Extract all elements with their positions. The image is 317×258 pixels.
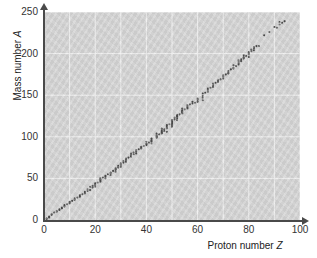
- y-tick-label: 0: [4, 215, 38, 225]
- scatter-point: [278, 23, 280, 25]
- scatter-points-layer: [44, 12, 300, 220]
- x-tick-label: 100: [285, 225, 315, 235]
- scatter-point: [156, 132, 158, 134]
- scatter-point: [179, 113, 181, 115]
- scatter-point: [194, 102, 196, 104]
- scatter-point: [278, 21, 280, 23]
- scatter-point: [209, 87, 211, 89]
- scatter-point: [92, 185, 94, 187]
- x-tick-label: 0: [29, 225, 59, 235]
- scatter-point: [120, 162, 122, 164]
- scatter-point: [197, 97, 199, 99]
- scatter-point: [89, 189, 91, 191]
- x-tick-label: 20: [80, 225, 110, 235]
- scatter-point: [63, 204, 65, 206]
- scatter-point: [61, 206, 63, 208]
- x-tick-label: 80: [234, 225, 264, 235]
- scatter-point: [104, 175, 106, 177]
- scatter-point: [253, 46, 255, 48]
- x-axis-line: [44, 220, 304, 222]
- scatter-point: [112, 170, 114, 172]
- scatter-point: [176, 114, 178, 116]
- scatter-point: [138, 148, 140, 150]
- scatter-point: [204, 92, 206, 94]
- y-axis-title: Mass number A: [12, 6, 23, 126]
- scatter-point: [81, 193, 83, 195]
- scatter-point: [158, 133, 160, 135]
- scatter-point: [148, 142, 150, 144]
- scatter-point: [127, 157, 129, 159]
- scatter-point: [56, 210, 58, 212]
- scatter-point: [166, 131, 168, 133]
- scatter-point: [248, 56, 250, 58]
- scatter-point: [161, 127, 163, 129]
- y-axis-arrow-icon: [40, 3, 48, 10]
- scatter-point: [107, 173, 109, 175]
- scatter-point: [115, 167, 117, 169]
- scatter-point: [235, 65, 237, 67]
- scatter-point: [273, 26, 275, 28]
- scatter-point: [163, 128, 165, 130]
- scatter-point: [250, 48, 252, 50]
- x-axis-title-text: Proton number: [207, 240, 273, 251]
- scatter-point: [276, 27, 278, 29]
- scatter-point: [48, 216, 50, 218]
- scatter-point: [168, 123, 170, 125]
- scatter-point: [135, 149, 137, 151]
- scatter-point: [171, 119, 173, 121]
- scatter-point: [150, 137, 152, 139]
- scatter-point: [222, 74, 224, 76]
- plot-area: [44, 12, 300, 220]
- x-axis-title-symbol: Z: [276, 240, 282, 251]
- scatter-point: [186, 104, 188, 106]
- y-axis-line: [43, 8, 45, 222]
- scatter-point: [130, 152, 132, 154]
- scatter-point: [51, 213, 53, 215]
- scatter-point: [86, 188, 88, 190]
- x-tick-label: 60: [183, 225, 213, 235]
- scatter-point: [110, 172, 112, 174]
- scatter-point: [66, 203, 68, 205]
- scatter-point: [181, 107, 183, 109]
- scatter-point: [268, 31, 270, 33]
- scatter-point: [99, 177, 101, 179]
- y-tick-label: 100: [4, 132, 38, 142]
- scatter-point: [202, 95, 204, 97]
- scatter-point: [74, 197, 76, 199]
- scatter-point: [255, 45, 257, 47]
- chart-figure: 050100150200250 020406080100 Mass number…: [0, 0, 317, 258]
- scatter-point: [202, 92, 204, 94]
- scatter-point: [166, 124, 168, 126]
- scatter-point: [89, 186, 91, 188]
- scatter-point: [263, 34, 265, 36]
- scatter-point: [212, 83, 214, 85]
- scatter-point: [214, 82, 216, 84]
- scatter-point: [232, 67, 234, 69]
- scatter-point: [145, 141, 147, 143]
- scatter-point: [53, 211, 55, 213]
- scatter-point: [245, 55, 247, 57]
- scatter-point: [184, 108, 186, 110]
- scatter-point: [258, 45, 260, 47]
- scatter-point: [281, 22, 283, 24]
- scatter-point: [238, 59, 240, 61]
- scatter-point: [202, 99, 204, 101]
- scatter-point: [248, 51, 250, 53]
- scatter-point: [227, 70, 229, 72]
- scatter-point: [189, 103, 191, 105]
- scatter-point: [58, 208, 60, 210]
- scatter-point: [122, 160, 124, 162]
- scatter-point: [94, 182, 96, 184]
- scatter-point: [230, 68, 232, 70]
- scatter-point: [174, 117, 176, 119]
- scatter-point: [79, 194, 81, 196]
- x-axis-title: Proton number Z: [180, 240, 310, 251]
- y-axis-title-text: Mass number: [12, 40, 23, 101]
- scatter-point: [240, 58, 242, 60]
- scatter-point: [140, 146, 142, 148]
- scatter-point: [217, 79, 219, 81]
- scatter-point: [125, 157, 127, 159]
- scatter-point: [225, 73, 227, 75]
- scatter-point: [84, 191, 86, 193]
- scatter-point: [102, 177, 104, 179]
